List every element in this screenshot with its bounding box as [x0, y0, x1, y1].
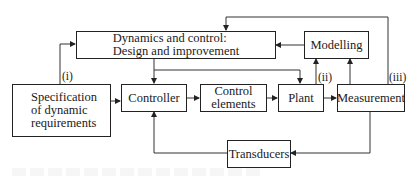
edge-transducers-to-controller	[154, 112, 227, 153]
control-elements-line2: elements	[211, 98, 255, 111]
controller-label: Controller	[128, 92, 179, 105]
path-label-iii: (iii)	[389, 71, 406, 83]
path-label-i: (i)	[62, 70, 73, 82]
spec-line3: requirements	[31, 117, 97, 130]
path-label-ii: (ii)	[318, 71, 332, 83]
dynamics-line2: Design and improvement	[113, 45, 239, 58]
transducers-box: Transducers	[227, 140, 291, 168]
edge-measurement-to-transducers	[291, 111, 370, 153]
measurement-box: Measurement	[337, 84, 405, 112]
controller-box: Controller	[121, 84, 187, 112]
specification-box: Specification of dynamic requirements	[12, 84, 111, 137]
faint-caption	[12, 168, 262, 176]
dynamics-design-box: Dynamics and control: Design and improve…	[76, 31, 276, 59]
edge-dynamics-to-plant	[154, 70, 300, 83]
control-elements-box: Control elements	[200, 84, 267, 112]
modelling-label: Modelling	[310, 39, 362, 52]
modelling-box: Modelling	[304, 31, 369, 59]
plant-label: Plant	[288, 92, 314, 105]
transducers-label: Transducers	[229, 148, 290, 161]
plant-box: Plant	[278, 84, 324, 112]
measurement-label: Measurement	[337, 92, 405, 105]
